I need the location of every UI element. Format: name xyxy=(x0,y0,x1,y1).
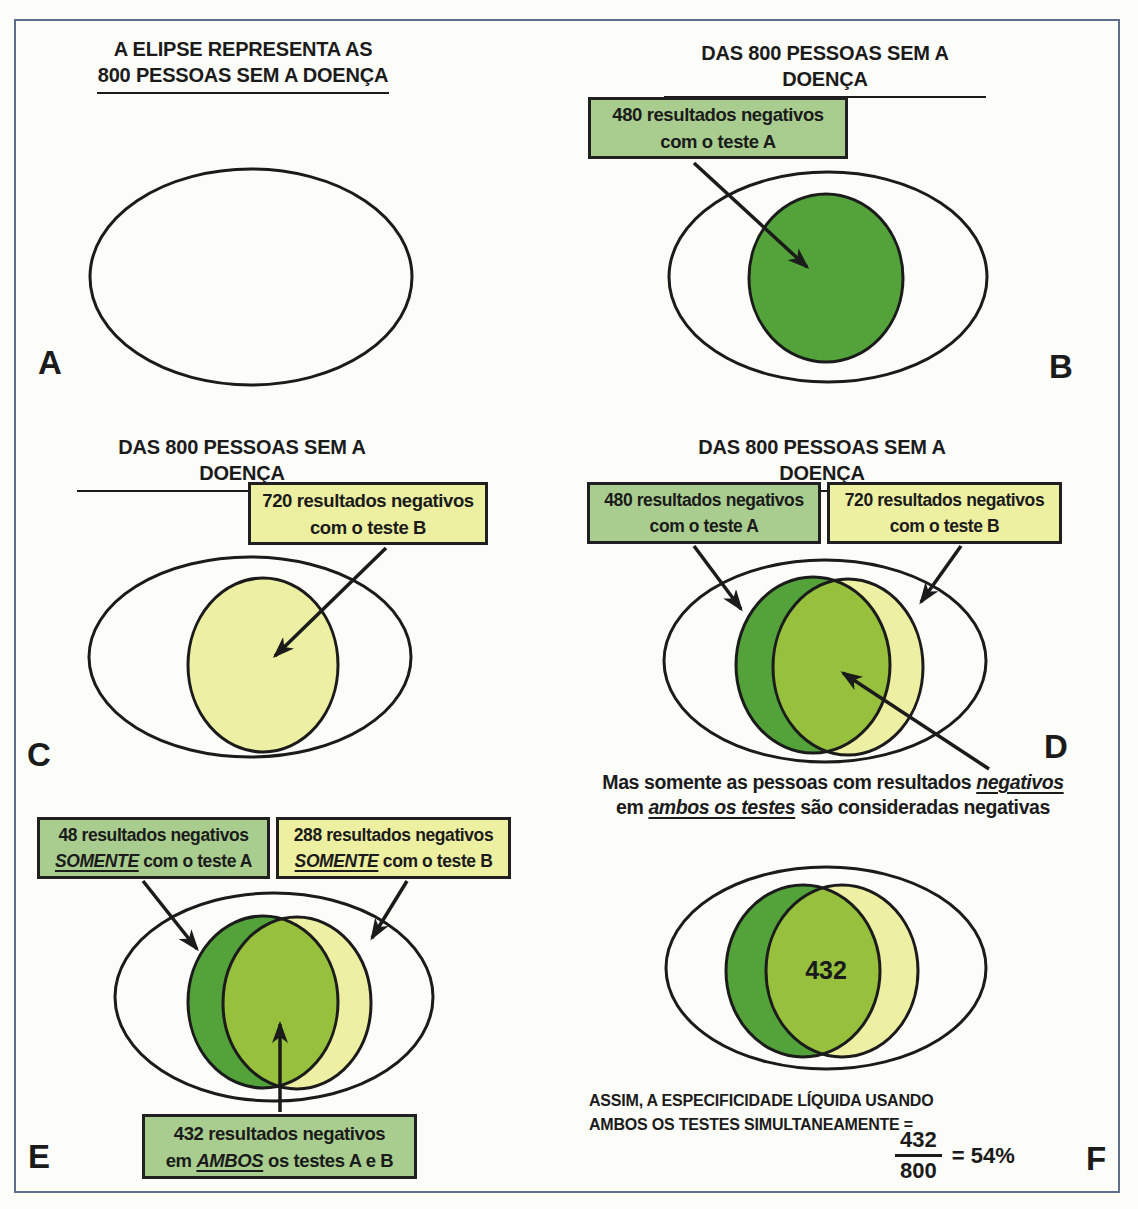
caption-text: Mas somente as pessoas com resultados xyxy=(602,771,976,793)
specificity-venn-figure: A ELIPSE REPRESENTA AS 800 PESSOAS SEM A… xyxy=(0,0,1138,1209)
panel-d-test-a-label-box: 480 resultados negativos com o teste A xyxy=(587,482,821,544)
panel-a-title: A ELIPSE REPRESENTA AS 800 PESSOAS SEM A… xyxy=(97,36,389,94)
caption-text: são consideradas negativas xyxy=(795,796,1050,818)
panel-f-overlap-value: 432 xyxy=(790,956,862,985)
caption-line2: em ambos os testes são consideradas nega… xyxy=(585,795,1081,820)
label-line: SOMENTE com o teste B xyxy=(295,848,493,874)
panel-d-test-b-label-box: 720 resultados negativos com o teste B xyxy=(827,482,1062,544)
label-line: 480 resultados negativos xyxy=(612,101,823,128)
label-emphasis: SOMENTE xyxy=(55,851,139,871)
panel-e-letter: E xyxy=(28,1140,50,1173)
panel-b-test-a-label-box: 480 resultados negativos com o teste A xyxy=(588,97,848,159)
panel-c-letter: C xyxy=(27,738,51,771)
panel-a-title-line2: 800 PESSOAS SEM A DOENÇA xyxy=(97,62,389,88)
label-line: com o teste A xyxy=(660,128,775,155)
panel-c-venn xyxy=(89,548,411,757)
label-line: SOMENTE com o teste A xyxy=(55,848,252,874)
label-text: os testes A e B xyxy=(263,1150,393,1171)
label-line: 480 resultados negativos xyxy=(604,487,804,513)
panel-e-only-test-a-label-box: 48 resultados negativos SOMENTE com o te… xyxy=(37,817,270,879)
panel-c-test-b-circle xyxy=(188,578,338,752)
panel-d-venn xyxy=(664,546,989,769)
label-line: 48 resultados negativos xyxy=(58,822,248,848)
label-line: com o teste B xyxy=(890,513,1000,539)
panel-c-test-b-label-box: 720 resultados negativos com o teste B xyxy=(248,482,488,545)
caption-line1: Mas somente as pessoas com resultados ne… xyxy=(585,770,1081,795)
panel-a-title-line1: A ELIPSE REPRESENTA AS xyxy=(97,36,389,62)
fraction: 432 800 xyxy=(895,1128,942,1183)
label-line: 432 resultados negativos xyxy=(174,1120,385,1147)
panel-d-letter: D xyxy=(1044,730,1068,763)
label-line: em AMBOS os testes A e B xyxy=(166,1147,394,1174)
fraction-result: = 54% xyxy=(952,1143,1015,1169)
panel-b-letter: B xyxy=(1049,350,1073,383)
label-emphasis: SOMENTE xyxy=(295,851,379,871)
caption-emphasis: ambos os testes xyxy=(648,796,795,818)
panel-e-only-test-b-label-box: 288 resultados negativos SOMENTE com o t… xyxy=(276,817,511,879)
panel-b-test-a-circle xyxy=(749,194,903,362)
caption-text: em xyxy=(616,796,648,818)
label-text: com o teste B xyxy=(378,851,492,871)
fraction-numerator: 432 xyxy=(895,1128,942,1154)
label-emphasis: AMBOS xyxy=(196,1150,263,1171)
diagram-shapes xyxy=(0,0,1138,1209)
panel-f-fraction: 432 800 = 54% xyxy=(895,1128,1015,1183)
caption-emphasis: negativos xyxy=(976,771,1063,793)
panel-b-venn xyxy=(669,163,987,382)
panel-e-both-tests-label-box: 432 resultados negativos em AMBOS os tes… xyxy=(142,1114,417,1179)
label-text: em xyxy=(166,1150,197,1171)
label-line: com o teste B xyxy=(310,514,426,541)
panel-a-letter: A xyxy=(38,346,62,379)
note-line1: ASSIM, A ESPECIFICIDADE LÍQUIDA USANDO xyxy=(589,1089,959,1113)
panel-d-caption: Mas somente as pessoas com resultados ne… xyxy=(585,770,1081,819)
label-line: 720 resultados negativos xyxy=(262,487,473,514)
label-line: com o teste A xyxy=(650,513,759,539)
panel-b-title: DAS 800 PESSOAS SEM A DOENÇA xyxy=(664,40,986,98)
label-text: com o teste A xyxy=(139,851,252,871)
panel-a-population-ellipse xyxy=(90,169,412,385)
label-line: 720 resultados negativos xyxy=(845,487,1045,513)
label-line: 288 resultados negativos xyxy=(294,822,494,848)
fraction-denominator: 800 xyxy=(895,1154,942,1183)
panel-f-letter: F xyxy=(1086,1142,1106,1175)
panel-e-venn xyxy=(115,881,433,1112)
